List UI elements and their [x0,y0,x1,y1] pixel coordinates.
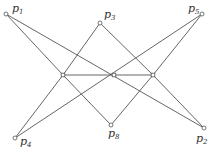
edge-p1-m1 [6,14,63,75]
label-p2: p2 [196,132,208,146]
intersection-m1 [61,73,65,77]
label-p8: p8 [108,127,120,141]
point-p5 [200,12,204,16]
edge-p5-m3 [153,14,202,75]
point-p1 [4,12,8,16]
edge-p2-m3 [153,75,204,128]
intersection-m2 [112,73,116,77]
label-p5: p5 [188,2,200,16]
edge-p4-m1 [15,75,63,138]
edge-p3-m3 [100,23,153,75]
diagram-canvas: p1p3p5p4p8p2 [0,0,217,151]
label-p3: p3 [104,8,116,22]
edge-m3-p8 [111,75,153,125]
edge-p5-p4 [15,14,202,138]
point-p3 [98,21,102,25]
label-p1: p1 [12,2,24,16]
edges [6,14,204,138]
point-p2 [202,126,206,130]
edge-m1-p8 [63,75,111,125]
point-p4 [13,136,17,140]
edge-p3-m1 [63,23,100,75]
intersection-m3 [151,73,155,77]
label-p4: p4 [20,135,32,149]
